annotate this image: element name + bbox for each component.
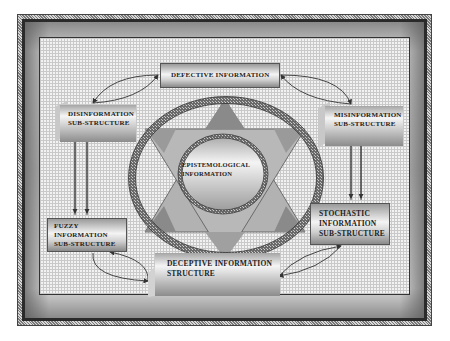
node-disinformation-substructure[interactable]: DISINFORMATION SUB-STRUCTURE — [60, 105, 136, 142]
node-label-line2: SUB-STRUCTURE — [334, 120, 403, 129]
node-label-line1: DECEPTIVE INFORMATION — [167, 259, 280, 269]
node-label-line2: STRUCTURE — [167, 269, 280, 279]
node-label-line1: STOCHASTIC — [319, 209, 389, 219]
node-fuzzy-information-substructure[interactable]: FUZZY INFORMATION SUB-STRUCTURE — [47, 218, 127, 252]
node-label-line2: INFORMATION — [54, 231, 126, 240]
node-label-line3: SUB-STRUCTURE — [319, 229, 389, 239]
node-label-line2: INFORMATION — [319, 219, 389, 229]
node-label-line2: SUB-STRUCTURE — [68, 119, 136, 128]
node-label-line2: INFORMATION — [182, 169, 264, 178]
node-epistemological-information[interactable]: EPISTEMOLOGICAL INFORMATION — [182, 160, 264, 182]
node-label-line1: DISINFORMATION — [68, 110, 136, 119]
node-label-line1: FUZZY — [54, 222, 126, 231]
node-label: DEFECTIVE INFORMATION — [171, 71, 279, 80]
node-deceptive-information-structure[interactable]: DECEPTIVE INFORMATION STRUCTURE — [155, 253, 280, 296]
node-defective-information[interactable]: DEFECTIVE INFORMATION — [160, 63, 280, 88]
node-label-line3: SUB-STRUCTURE — [54, 240, 126, 249]
node-stochastic-information-substructure[interactable]: STOCHASTIC INFORMATION SUB-STRUCTURE — [310, 203, 390, 245]
node-misinformation-substructure[interactable]: MISINFORMATION SUB-STRUCTURE — [325, 106, 403, 146]
node-label-line1: EPISTEMOLOGICAL — [182, 160, 264, 169]
node-label-line1: MISINFORMATION — [334, 111, 403, 120]
